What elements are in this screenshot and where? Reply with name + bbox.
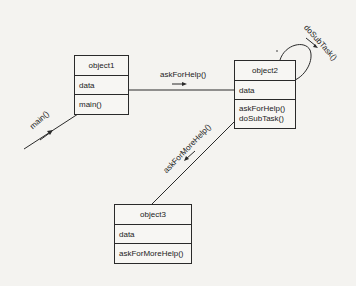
object1-box[interactable]: object1 data main() — [74, 55, 129, 115]
dot-mark — [276, 50, 278, 52]
askForHelp-message-label: askForHelp() — [160, 70, 206, 79]
object2-methods: askForHelp() doSubTask() — [235, 100, 295, 128]
object1-method: main() — [79, 100, 124, 109]
object3-name: object3 — [115, 205, 191, 225]
object2-attribute: data — [235, 81, 295, 100]
object2-method: doSubTask() — [239, 114, 291, 124]
askForHelp-arrow-icon — [172, 82, 187, 86]
object3-method: askForMoreHelp() — [119, 249, 187, 258]
main-arrow-icon — [40, 130, 53, 140]
object2-box[interactable]: object2 data askForHelp() doSubTask() — [234, 60, 296, 129]
object2-method: askForHelp() — [239, 104, 291, 114]
object3-box[interactable]: object3 data askForMoreHelp() — [114, 204, 192, 264]
object1-methods: main() — [75, 95, 128, 114]
object3-attribute: data — [115, 225, 191, 244]
object3-methods: askForMoreHelp() — [115, 244, 191, 263]
object1-name: object1 — [75, 56, 128, 76]
object1-attribute: data — [75, 76, 128, 95]
object2-name: object2 — [235, 61, 295, 81]
